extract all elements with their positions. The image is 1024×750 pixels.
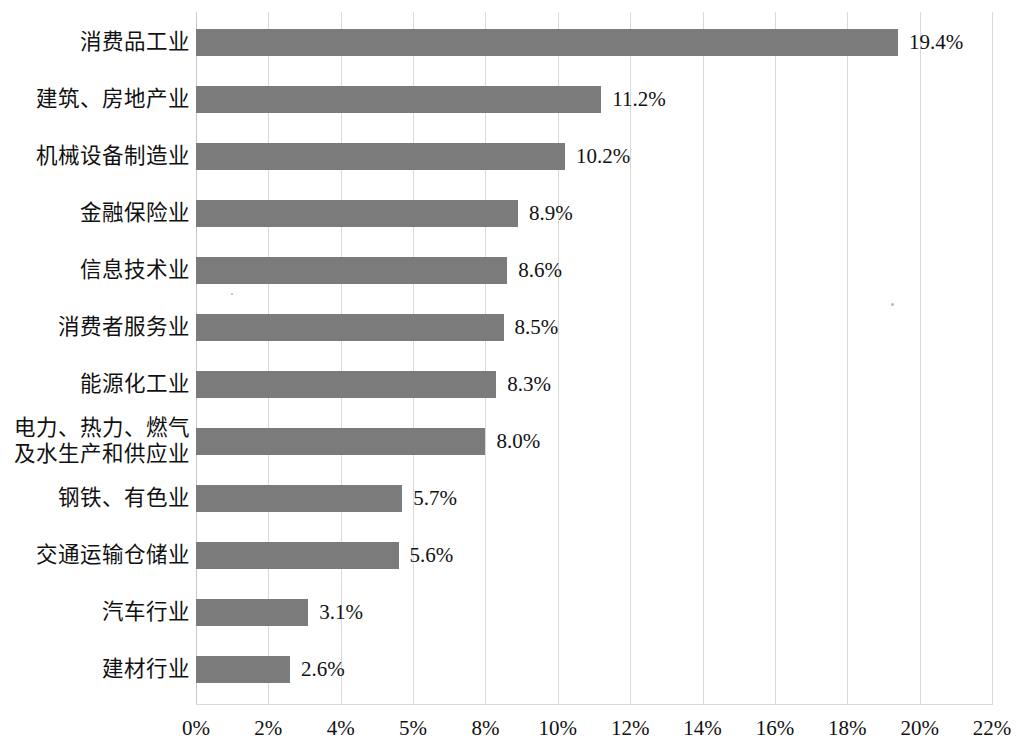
category-label: 信息技术业 (0, 257, 190, 283)
x-tick-label: 5% (399, 713, 427, 743)
bar-row: 8.5% (196, 299, 992, 356)
category-label: 消费品工业 (0, 29, 190, 55)
bar-value-label: 8.5% (515, 311, 559, 343)
bar-row: 5.7% (196, 470, 992, 527)
x-tick-label: 12% (611, 713, 650, 743)
category-label: 电力、热力、燃气 及水生产和供应业 (0, 415, 190, 467)
bar[interactable] (196, 428, 485, 455)
bar-row: 5.6% (196, 527, 992, 584)
bar-value-label: 10.2% (576, 140, 630, 172)
bar-value-label: 8.9% (529, 197, 573, 229)
bar-row: 19.4% (196, 14, 992, 71)
bar[interactable] (196, 143, 565, 170)
x-axis-tick-labels: 0%2%4%5%8%10%12%14%16%18%20%22% (0, 713, 1024, 747)
category-label: 汽车行业 (0, 599, 190, 625)
category-label: 消费者服务业 (0, 314, 190, 340)
bar[interactable] (196, 257, 507, 284)
x-tick-label: 18% (828, 713, 867, 743)
bar[interactable] (196, 485, 402, 512)
category-label: 建材行业 (0, 656, 190, 682)
bar-row: 10.2% (196, 128, 992, 185)
x-tick-label: 20% (900, 713, 939, 743)
bar[interactable] (196, 86, 601, 113)
x-tick-label: 0% (182, 713, 210, 743)
x-tick-label: 14% (683, 713, 722, 743)
bar[interactable] (196, 29, 898, 56)
plot-area: 19.4%11.2%10.2%8.9%8.6%8.5%8.3%8.0%5.7%5… (196, 12, 992, 705)
bar-value-label: 8.6% (518, 254, 562, 286)
bar-row: 3.1% (196, 584, 992, 641)
x-tick-label: 2% (254, 713, 282, 743)
category-label: 交通运输仓储业 (0, 542, 190, 568)
bar-value-label: 3.1% (319, 596, 363, 628)
bar-rows: 19.4%11.2%10.2%8.9%8.6%8.5%8.3%8.0%5.7%5… (196, 12, 992, 705)
x-tick-label: 16% (756, 713, 795, 743)
bar[interactable] (196, 599, 308, 626)
bar-row: 11.2% (196, 71, 992, 128)
x-tick-label: 22% (973, 713, 1012, 743)
scan-speck (891, 303, 894, 306)
category-axis-labels: 消费品工业建筑、房地产业机械设备制造业金融保险业信息技术业消费者服务业能源化工业… (0, 12, 190, 705)
bar-value-label: 8.0% (496, 425, 540, 457)
x-tick-label: 8% (471, 713, 499, 743)
bar-value-label: 2.6% (301, 653, 345, 685)
bar-value-label: 8.3% (507, 368, 551, 400)
scan-speck (231, 293, 233, 295)
bar[interactable] (196, 542, 399, 569)
bar-value-label: 5.6% (410, 539, 454, 571)
bar-row: 8.0% (196, 413, 992, 470)
x-tick-label: 10% (539, 713, 578, 743)
category-label: 建筑、房地产业 (0, 86, 190, 112)
bar[interactable] (196, 314, 504, 341)
bar-row: 2.6% (196, 641, 992, 698)
bar[interactable] (196, 656, 290, 683)
bar-value-label: 5.7% (413, 482, 457, 514)
gridline-22 (992, 12, 993, 705)
bar-row: 8.9% (196, 185, 992, 242)
x-tick-label: 4% (327, 713, 355, 743)
horizontal-bar-chart: 消费品工业建筑、房地产业机械设备制造业金融保险业信息技术业消费者服务业能源化工业… (0, 0, 1024, 750)
bar-value-label: 11.2% (612, 83, 665, 115)
category-label: 能源化工业 (0, 371, 190, 397)
category-label: 钢铁、有色业 (0, 485, 190, 511)
category-label: 机械设备制造业 (0, 143, 190, 169)
bar-row: 8.3% (196, 356, 992, 413)
category-label: 金融保险业 (0, 200, 190, 226)
bar[interactable] (196, 200, 518, 227)
bar-value-label: 19.4% (909, 26, 963, 58)
bar-row: 8.6% (196, 242, 992, 299)
bar[interactable] (196, 371, 496, 398)
